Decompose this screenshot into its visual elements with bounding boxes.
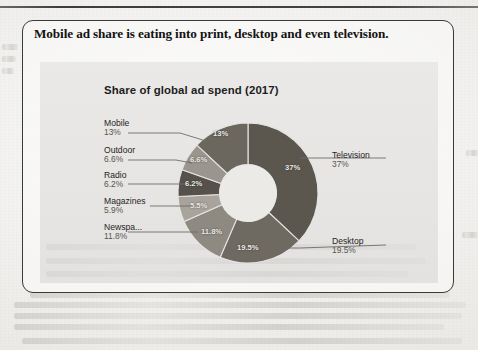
label-magazines: Magazines 5.9% xyxy=(104,196,146,216)
label-newspapers: Newspa... 11.8% xyxy=(104,222,142,242)
ghost-text-line xyxy=(2,68,14,74)
label-radio: Radio 6.2% xyxy=(104,170,126,190)
top-rule xyxy=(0,6,478,8)
label-desktop-value: 19.5% xyxy=(332,246,364,256)
slice-value-mobile: 13% xyxy=(213,129,228,138)
label-desktop: Desktop 19.5% xyxy=(332,236,364,256)
ghost-text-line xyxy=(46,271,408,277)
label-television-value: 37% xyxy=(332,160,370,170)
headline: Mobile ad share is eating into print, de… xyxy=(34,26,444,42)
label-mobile: Mobile 13% xyxy=(104,118,129,138)
label-television: Television 37% xyxy=(332,150,370,170)
label-radio-value: 6.2% xyxy=(104,180,126,190)
label-mobile-value: 13% xyxy=(104,128,129,138)
ghost-text-line xyxy=(14,302,466,308)
slice-value-outdoor: 6.6% xyxy=(190,155,207,164)
ghost-text-line xyxy=(14,313,462,319)
label-outdoor-value: 6.6% xyxy=(104,155,135,165)
slice-value-desktop: 19.5% xyxy=(237,243,259,252)
chart-title: Share of global ad spend (2017) xyxy=(104,84,279,96)
slice-value-radio: 6.2% xyxy=(185,179,202,188)
ghost-text-line xyxy=(2,56,16,62)
ghost-text-line xyxy=(2,44,18,50)
ghost-text-line xyxy=(462,232,478,238)
slice-value-newspapers: 11.8% xyxy=(201,227,222,236)
label-magazines-value: 5.9% xyxy=(104,206,146,216)
slice-value-magazines: 5.5% xyxy=(190,201,207,210)
label-newspapers-value: 11.8% xyxy=(104,232,142,242)
ghost-text-line xyxy=(14,324,444,330)
label-outdoor: Outdoor 6.6% xyxy=(104,145,135,165)
ghost-text-line xyxy=(22,338,462,344)
slice-value-television: 37% xyxy=(285,163,300,172)
ghost-text-line xyxy=(466,150,478,156)
ghost-text-line xyxy=(46,258,426,264)
